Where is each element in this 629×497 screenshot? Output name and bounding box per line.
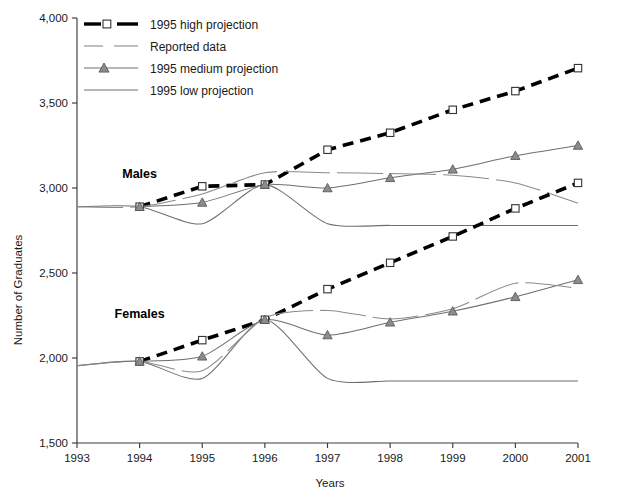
x-tick-label: 1994 <box>127 452 153 464</box>
legend-label: Reported data <box>150 40 226 54</box>
chart-legend: 1995 high projectionReported data1995 me… <box>84 18 278 98</box>
legend-label: 1995 medium projection <box>150 62 278 76</box>
chart-canvas: 1,5002,0002,5003,0003,5004,000 199319941… <box>0 0 629 497</box>
data-point-marker-square <box>199 183 206 190</box>
group-label-males: Males <box>122 167 157 181</box>
series-line-low <box>77 320 578 383</box>
y-tick-label: 3,000 <box>39 182 68 194</box>
data-point-marker-triangle <box>573 141 582 149</box>
data-point-marker-square <box>386 259 393 266</box>
series-line-reported <box>77 283 578 372</box>
y-tick-label: 1,500 <box>39 437 68 449</box>
data-point-marker-square <box>574 64 581 71</box>
data-point-marker-square <box>574 179 581 186</box>
x-tick-label: 2000 <box>503 452 529 464</box>
series-line-medium <box>140 146 578 207</box>
x-axis: 199319941995199619971998199920002001 <box>64 443 591 464</box>
data-point-marker-triangle <box>573 275 582 283</box>
x-tick-label: 2001 <box>565 452 591 464</box>
x-tick-label: 1993 <box>64 452 90 464</box>
y-tick-label: 2,000 <box>39 352 68 364</box>
y-axis-title: Number of Graduates <box>12 234 24 345</box>
data-point-marker-square <box>449 233 456 240</box>
data-point-marker-square <box>449 106 456 113</box>
x-tick-label: 1999 <box>440 452 466 464</box>
y-tick-label: 2,500 <box>39 267 68 279</box>
legend-marker-square <box>103 20 111 28</box>
data-point-marker-square <box>512 205 519 212</box>
group-labels-layer: MalesFemales <box>115 167 165 321</box>
x-axis-title: Years <box>316 477 345 489</box>
y-axis: 1,5002,0002,5003,0003,5004,000 <box>39 12 77 449</box>
legend-label: 1995 low projection <box>150 84 253 98</box>
legend-item[interactable]: 1995 high projection <box>84 18 258 32</box>
legend-item[interactable]: 1995 low projection <box>84 84 253 98</box>
data-point-marker-triangle <box>198 352 207 360</box>
graduates-projection-chart: 1,5002,0002,5003,0003,5004,000 199319941… <box>0 0 629 497</box>
y-tick-label: 4,000 <box>39 12 68 24</box>
data-point-marker-square <box>324 285 331 292</box>
markers-layer <box>135 64 583 365</box>
data-point-marker-square <box>324 146 331 153</box>
data-point-marker-square <box>199 336 206 343</box>
legend-item[interactable]: 1995 medium projection <box>84 62 278 76</box>
y-tick-label: 3,500 <box>39 97 68 109</box>
x-tick-label: 1998 <box>377 452 403 464</box>
group-label-females: Females <box>115 307 165 321</box>
series-line-medium <box>140 280 578 362</box>
legend-label: 1995 high projection <box>150 18 258 32</box>
data-point-marker-square <box>386 129 393 136</box>
x-tick-label: 1996 <box>252 452 278 464</box>
x-tick-label: 1997 <box>315 452 341 464</box>
data-point-marker-square <box>512 87 519 94</box>
x-tick-label: 1995 <box>189 452 215 464</box>
legend-item[interactable]: Reported data <box>84 40 226 54</box>
